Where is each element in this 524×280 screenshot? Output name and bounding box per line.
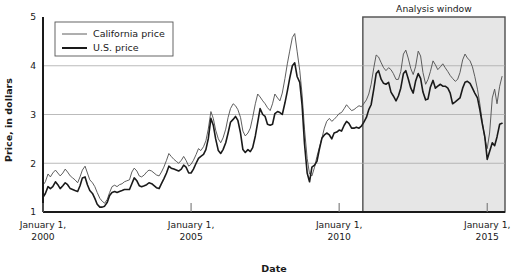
x-tick-label-line1: January 1, xyxy=(167,219,215,230)
x-tick-label-line2: 2010 xyxy=(327,231,351,242)
y-tick-label-5: 5 xyxy=(30,11,36,22)
x-tick-label-line1: January 1, xyxy=(463,219,511,230)
x-tick-label-2005: January 1,2005 xyxy=(167,219,215,242)
y-tick-label-3: 3 xyxy=(30,109,36,120)
x-tick-label-line1: January 1, xyxy=(19,219,67,230)
legend-label-1: U.S. price xyxy=(93,42,139,53)
chart-figure: Price, in dollars Date 12345 January 1,2… xyxy=(0,0,524,280)
chart-legend: California priceU.S. price xyxy=(55,22,173,56)
y-tick-label-1: 1 xyxy=(30,206,36,217)
x-tick-label-line2: 2000 xyxy=(31,231,55,242)
annotation-labels: Analysis window xyxy=(396,3,472,14)
y-tick-label-4: 4 xyxy=(30,60,36,71)
x-tick-label-line2: 2005 xyxy=(179,231,203,242)
chart-labels: Price, in dollars Date 12345 January 1,2… xyxy=(0,0,524,280)
y-tick-labels: 12345 xyxy=(30,11,36,217)
analysis-window-label: Analysis window xyxy=(396,3,472,14)
x-tick-label-2010: January 1,2010 xyxy=(315,219,363,242)
legend-label-0: California price xyxy=(93,28,165,39)
y-tick-label-2: 2 xyxy=(30,158,36,169)
y-axis-title: Price, in dollars xyxy=(3,78,14,162)
x-tick-label-line2: 2015 xyxy=(476,231,500,242)
x-axis-title: Date xyxy=(261,263,286,274)
x-tick-label-2000: January 1,2000 xyxy=(19,219,67,242)
x-tick-label-2015: January 1,2015 xyxy=(463,219,511,242)
x-tick-labels: January 1,2000January 1,2005January 1,20… xyxy=(19,219,511,242)
x-tick-label-line1: January 1, xyxy=(315,219,363,230)
